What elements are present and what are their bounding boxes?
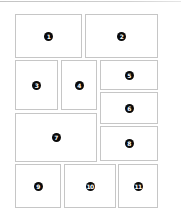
panel-4: 4: [61, 60, 97, 110]
number-badge: 1: [44, 32, 53, 41]
panel-11: 11: [118, 164, 158, 208]
panel-8: 8: [100, 126, 158, 161]
number-badge: 4: [75, 81, 84, 90]
number-badge: 9: [34, 182, 43, 191]
panel-7: 7: [15, 113, 97, 162]
number-badge: 11: [134, 182, 143, 191]
number-badge: 5: [125, 71, 134, 80]
number-badge: 6: [125, 104, 134, 113]
panel-6: 6: [100, 92, 158, 124]
number-badge: 10: [86, 182, 95, 191]
number-badge: 7: [52, 133, 61, 142]
panel-10: 10: [64, 164, 116, 208]
number-badge: 3: [32, 81, 41, 90]
panel-5: 5: [100, 60, 158, 90]
panel-2: 2: [85, 14, 158, 58]
panel-9: 9: [15, 164, 61, 208]
panel-3: 3: [15, 60, 58, 110]
panel-1: 1: [15, 14, 82, 58]
number-badge: 2: [117, 32, 126, 41]
number-badge: 8: [125, 139, 134, 148]
top-divider: [0, 1, 181, 2]
